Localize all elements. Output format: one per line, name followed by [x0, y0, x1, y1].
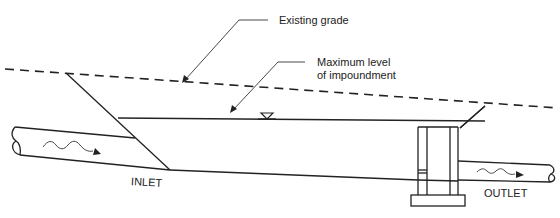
- outlet-flow-arrow-icon: [477, 169, 515, 175]
- inlet-pipe-bottom: [20, 155, 170, 170]
- outlet-riser-structure: [411, 127, 465, 206]
- right-slope-to-riser: [460, 106, 485, 128]
- outlet-pipe-top: [458, 161, 550, 165]
- outlet-flow-arrowhead-icon: [516, 171, 524, 178]
- outlet-pipe-bottom: [458, 180, 550, 182]
- existing-grade-line: [5, 69, 558, 108]
- impoundment-cross-section-diagram: [0, 0, 560, 218]
- max-level-leader: [233, 62, 305, 110]
- max-level-label: Maximum level of impoundment: [317, 56, 396, 82]
- basin-floor-under-riser: [418, 180, 458, 181]
- inlet-flow-arrowhead-icon: [93, 148, 101, 155]
- basin-floor: [170, 170, 418, 180]
- inlet-pipe-break-icon: [12, 127, 20, 155]
- max-water-level-line: [118, 118, 485, 121]
- max-level-label-line2: of impoundment: [317, 69, 396, 82]
- outlet-pipe-break-icon: [549, 165, 555, 182]
- water-level-symbol-icon: [261, 113, 273, 119]
- existing-grade-label: Existing grade: [279, 14, 349, 27]
- existing-grade-leader: [185, 20, 268, 80]
- max-level-label-line1: Maximum level: [317, 56, 396, 69]
- left-embankment-slope: [66, 73, 170, 170]
- inlet-pipe-top: [15, 127, 135, 138]
- outlet-label: OUTLET: [484, 187, 527, 200]
- inlet-label: INLET: [131, 175, 163, 190]
- inlet-flow-arrow-icon: [43, 141, 93, 151]
